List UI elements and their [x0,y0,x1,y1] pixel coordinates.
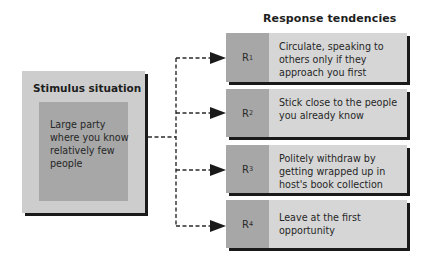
response-text-r4: Leave at the first opportunity [279,211,401,237]
stimulus-description: Large party where you know relatively fe… [50,118,130,170]
response-text-r2: Stick close to the people you already kn… [279,96,401,122]
response-label-r2: R2 [226,89,269,137]
response-tendencies-heading: Response tendencies [263,12,397,25]
response-box-r4: R4 Leave at the first opportunity [226,200,407,248]
response-box-r1: R1 Circulate, speaking to others only if… [226,33,407,82]
arrow-r1-icon [210,52,226,64]
stimulus-inner-box: Large party where you know relatively fe… [39,102,128,201]
response-label-r1: R1 [226,33,269,82]
response-label-r3: R3 [226,145,269,193]
arrow-r3-icon [210,164,226,176]
response-box-r3: R3 Politely withdraw by getting wrapped … [226,145,407,193]
stimulus-title: Stimulus situation [33,82,141,94]
response-text-r3: Politely withdraw by getting wrapped up … [279,152,401,191]
response-text-r1: Circulate, speaking to others only if th… [279,40,401,79]
arrow-r4-icon [210,220,226,232]
response-box-r2: R2 Stick close to the people you already… [226,89,407,137]
arrow-r2-icon [210,107,226,119]
response-label-r4: R4 [226,200,269,248]
stimulus-box: Stimulus situation Large party where you… [22,71,145,213]
